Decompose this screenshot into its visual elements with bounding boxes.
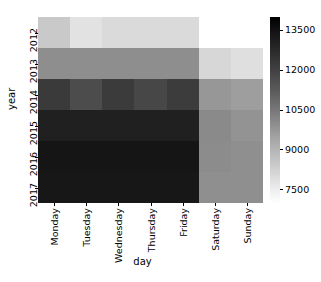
colorbar-tick-text: 13500 xyxy=(285,24,315,35)
x-tick-text: Wednesday xyxy=(113,208,124,263)
colorbar-tick-text: 9000 xyxy=(285,144,309,155)
heatmap-cell xyxy=(38,79,70,110)
x-axis-tickmark xyxy=(247,203,248,206)
heatmap-cell xyxy=(70,141,102,172)
heatmap-cell xyxy=(167,141,199,172)
x-axis-tickmark xyxy=(118,203,119,206)
heatmap-cell xyxy=(134,79,166,110)
x-tick-text: Saturday xyxy=(209,208,220,251)
x-tick-text: Monday xyxy=(49,208,60,246)
heatmap-cell xyxy=(199,172,231,203)
heatmap-cell xyxy=(102,141,134,172)
colorbar-tickmark xyxy=(280,70,283,71)
heatmap-cell xyxy=(167,17,199,48)
colorbar-tickmark xyxy=(280,110,283,111)
heatmap-cell xyxy=(134,172,166,203)
heatmap-cell xyxy=(231,17,263,48)
x-tick-text: Sunday xyxy=(241,208,252,244)
heatmap-cell xyxy=(102,79,134,110)
heatmap-cell xyxy=(231,110,263,141)
heatmap-plot-area: 201220132014201520162017 MondayTuesdayWe… xyxy=(38,17,263,203)
x-tick-text: Friday xyxy=(177,208,188,237)
heatmap-cell xyxy=(102,172,134,203)
heatmap-cell xyxy=(134,141,166,172)
heatmap-cell xyxy=(38,141,70,172)
heatmap-cell xyxy=(231,79,263,110)
colorbar-tickmark xyxy=(280,189,283,190)
x-axis-tickmark xyxy=(183,203,184,206)
heatmap-cell xyxy=(70,110,102,141)
x-axis-tickmark xyxy=(215,203,216,206)
heatmap-cell xyxy=(199,48,231,79)
x-axis-title: day xyxy=(0,256,285,267)
heatmap-cell xyxy=(199,79,231,110)
x-axis-tickmark xyxy=(86,203,87,206)
heatmap-cell xyxy=(38,110,70,141)
heatmap-cell xyxy=(102,48,134,79)
colorbar-tickmark xyxy=(280,149,283,150)
colorbar-tick-text: 10500 xyxy=(285,104,315,115)
heatmap-cell xyxy=(134,110,166,141)
heatmap-cell xyxy=(102,17,134,48)
colorbar-tick-text: 12000 xyxy=(285,64,315,75)
heatmap-cell xyxy=(231,48,263,79)
x-axis-tickmark xyxy=(54,203,55,206)
heatmap-cell xyxy=(199,141,231,172)
heatmap-cell xyxy=(38,172,70,203)
colorbar-tick-text: 7500 xyxy=(285,184,309,195)
heatmap-cell xyxy=(102,110,134,141)
colorbar: 13500120001050090007500 xyxy=(270,17,280,203)
x-tick-text: Thursday xyxy=(145,208,156,252)
heatmap-cell xyxy=(70,172,102,203)
x-axis-tickmark xyxy=(151,203,152,206)
heatmap-cell xyxy=(70,17,102,48)
heatmap-cell xyxy=(70,79,102,110)
heatmap-cell xyxy=(199,110,231,141)
heatmap-cell xyxy=(134,48,166,79)
heatmap-cell xyxy=(231,141,263,172)
x-tick-text: Tuesday xyxy=(81,208,92,247)
y-axis-title: year xyxy=(6,88,17,110)
heatmap-figure: 201220132014201520162017 MondayTuesdayWe… xyxy=(0,0,321,282)
heatmap-cell xyxy=(70,48,102,79)
heatmap-cell xyxy=(167,110,199,141)
colorbar-gradient xyxy=(270,17,280,203)
heatmap-cell xyxy=(167,79,199,110)
heatmap-cell xyxy=(167,172,199,203)
heatmap-cell xyxy=(231,172,263,203)
heatmap-cell xyxy=(38,48,70,79)
heatmap-cell xyxy=(38,17,70,48)
heatmap-cell xyxy=(134,17,166,48)
heatmap-cell xyxy=(199,17,231,48)
heatmap-cell xyxy=(167,48,199,79)
colorbar-tickmark xyxy=(280,30,283,31)
heatmap-cell-grid xyxy=(38,17,263,203)
